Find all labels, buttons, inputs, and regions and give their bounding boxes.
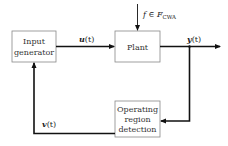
plant-block: Plant [115,31,160,62]
signal-u-label: u(t) [79,34,94,44]
input-generator-label-line2: generator [14,48,54,57]
input-generator-block: Input generator [12,31,56,62]
signal-v: v(t) [34,63,115,134]
signal-y: y(t) [160,34,220,48]
ord-label-line1: Operating [117,105,158,114]
signal-v-label: v(t) [42,119,56,129]
feedback-y-branch [161,47,190,122]
block-diagram: Input generator Plant Operating region d… [0,0,228,146]
operating-region-detection-block: Operating region detection [115,101,160,137]
ord-label-line3: detection [118,125,156,134]
input-generator-label-line1: Input [23,37,46,46]
signal-y-label: y(t) [186,34,201,44]
ord-label-line2: region [124,115,150,124]
signal-u: u(t) [56,34,114,47]
signal-f-label: f ∈ FCWA [142,10,177,20]
plant-label: Plant [127,43,149,52]
signal-f: f ∈ FCWA [138,4,178,30]
